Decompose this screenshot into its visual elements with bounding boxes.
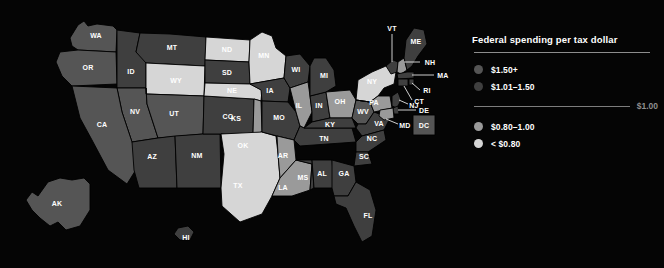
state-label-ID: ID [127, 68, 134, 75]
state-label-NM: NM [191, 152, 202, 159]
state-label-MO: MO [273, 114, 285, 121]
legend-item-2[interactable]: $0.80–1.00 [472, 118, 658, 135]
state-label-IN: IN [315, 102, 322, 109]
legend-label-0: $1.50+ [491, 65, 518, 75]
state-label-DE: DE [419, 107, 429, 114]
state-MA[interactable] [397, 72, 414, 79]
legend-item-0[interactable]: $1.50+ [472, 61, 658, 78]
state-label-FL: FL [364, 212, 373, 219]
legend: Federal spending per tax dollar $1.50+ $… [472, 34, 658, 152]
legend-label-2: $0.80–1.00 [491, 122, 535, 132]
state-label-MS: MS [298, 174, 309, 181]
legend-title: Federal spending per tax dollar [472, 34, 658, 45]
state-AZ[interactable] [132, 136, 177, 188]
state-ME[interactable] [404, 28, 427, 70]
state-label-OH: OH [335, 98, 346, 105]
legend-swatch-2 [474, 122, 483, 131]
state-CT[interactable] [398, 79, 408, 86]
map-canvas: WA OR ID MT WY ND SD NE MN WI MI IA NV U… [0, 0, 664, 268]
state-label-MI: MI [320, 72, 328, 79]
state-label-IA: IA [266, 87, 273, 94]
state-label-NC: NC [367, 135, 378, 142]
us-choropleth-map[interactable]: WA OR ID MT WY ND SD NE MN WI MI IA NV U… [0, 0, 470, 268]
state-TX[interactable] [221, 132, 280, 222]
state-label-WI: WI [292, 66, 301, 73]
state-label-ND: ND [222, 46, 233, 53]
state-label-PA: PA [369, 99, 379, 106]
state-label-MD: MD [399, 122, 410, 129]
state-label-AK: AK [52, 200, 63, 207]
state-label-NH: NH [425, 59, 436, 66]
state-label-TN: TN [319, 135, 329, 142]
state-label-TX: TX [233, 182, 242, 189]
legend-item-1[interactable]: $1.01–1.50 [472, 78, 658, 95]
legend-swatch-3 [474, 139, 483, 148]
legend-label-3: < $0.80 [491, 139, 520, 149]
state-label-WY: WY [170, 77, 182, 84]
state-label-MT: MT [167, 44, 178, 51]
state-label-WA: WA [90, 32, 102, 39]
state-label-OR: OR [83, 64, 94, 71]
state-label-VT: VT [387, 25, 397, 32]
state-label-MN: MN [258, 52, 269, 59]
legend-midline: $1.00 [472, 97, 658, 115]
legend-divider [474, 52, 650, 53]
state-label-SC: SC [359, 153, 369, 160]
leader-line-RI [412, 83, 420, 90]
state-label-HI: HI [182, 234, 189, 241]
state-label-NE: NE [227, 87, 237, 94]
state-KS[interactable] [253, 99, 262, 134]
state-label-VA: VA [374, 120, 384, 127]
state-label-KY: KY [325, 121, 335, 128]
leader-line-CT [404, 86, 412, 100]
state-label-NY: NY [367, 78, 377, 85]
state-label-IL: IL [296, 102, 303, 109]
legend-swatch-0 [474, 65, 483, 74]
legend-label-1: $1.01–1.50 [491, 82, 535, 92]
legend-midline-label: $1.00 [637, 101, 658, 111]
state-label-AZ: AZ [147, 153, 157, 160]
state-label-MA: MA [437, 72, 448, 79]
us-map-svg[interactable]: WA OR ID MT WY ND SD NE MN WI MI IA NV U… [0, 0, 470, 268]
state-label-SD: SD [222, 69, 232, 76]
legend-item-3[interactable]: < $0.80 [472, 135, 658, 152]
state-label-NV: NV [130, 108, 140, 115]
state-NM[interactable] [175, 134, 221, 188]
state-label-OK: OK [238, 142, 249, 149]
state-label-UT: UT [169, 110, 179, 117]
state-label-RI: RI [423, 87, 430, 94]
state-label-LA: LA [278, 184, 288, 191]
state-label-AL: AL [317, 170, 327, 177]
state-label-CA: CA [97, 121, 108, 128]
state-label-DC: DC [419, 122, 430, 129]
state-label-KS: KS [231, 115, 241, 122]
state-MD[interactable] [379, 108, 394, 120]
state-label-ME: ME [411, 38, 422, 45]
state-label-WV: WV [357, 108, 369, 115]
state-label-NJ: NJ [409, 102, 418, 109]
state-label-AR: AR [278, 152, 289, 159]
legend-swatch-1 [474, 82, 483, 91]
state-label-GA: GA [339, 170, 350, 177]
legend-midline-rule [474, 106, 630, 107]
